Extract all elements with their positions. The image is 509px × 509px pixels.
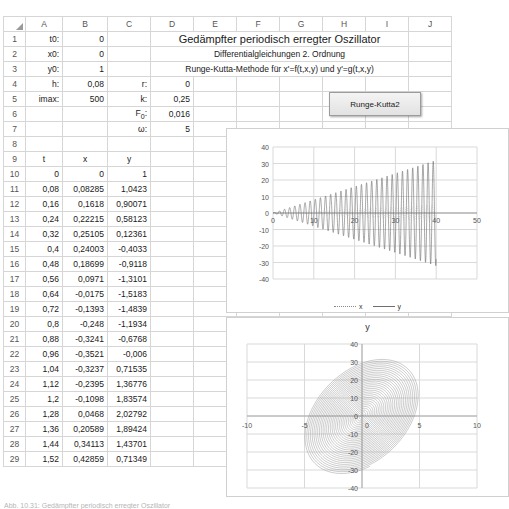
cell-c6-f0-label[interactable]: F0: xyxy=(108,107,151,122)
cell-c14-y[interactable]: 0,12361 xyxy=(108,227,151,242)
cell-j1[interactable] xyxy=(409,32,452,47)
cell-d26[interactable] xyxy=(151,407,194,422)
row-header-26[interactable]: 26 xyxy=(4,407,26,422)
cell-c10-y[interactable]: 1 xyxy=(108,167,151,182)
row-header-25[interactable]: 25 xyxy=(4,392,26,407)
cell-b8[interactable] xyxy=(63,137,108,152)
row-header-29[interactable]: 29 xyxy=(4,452,26,467)
column-header-a[interactable]: A xyxy=(26,17,63,32)
cell-f5[interactable] xyxy=(237,92,280,107)
cell-a3-y0-label[interactable]: y0: xyxy=(26,62,63,77)
cell-e6[interactable] xyxy=(194,107,237,122)
phase-plot-chart[interactable]: y xyxy=(226,317,509,497)
cell-d18[interactable] xyxy=(151,287,194,302)
cell-d7-omega-value[interactable]: 5 xyxy=(151,122,194,137)
cell-b26-x[interactable]: 0,0468 xyxy=(63,407,108,422)
cell-b21-x[interactable]: -0,3241 xyxy=(63,332,108,347)
cell-d4-r-value[interactable]: 0 xyxy=(151,77,194,92)
row-header-6[interactable]: 6 xyxy=(4,107,26,122)
cell-b22-x[interactable]: -0,3521 xyxy=(63,347,108,362)
row-header-7[interactable]: 7 xyxy=(4,122,26,137)
cell-c29-y[interactable]: 0,71349 xyxy=(108,452,151,467)
cell-d17[interactable] xyxy=(151,272,194,287)
cell-a26-t[interactable]: 1,28 xyxy=(26,407,63,422)
cell-d14[interactable] xyxy=(151,227,194,242)
cell-d24[interactable] xyxy=(151,377,194,392)
cell-d19[interactable] xyxy=(151,302,194,317)
cell-a15-t[interactable]: 0,4 xyxy=(26,242,63,257)
column-header-g[interactable]: G xyxy=(280,17,323,32)
cell-a27-t[interactable]: 1,36 xyxy=(26,422,63,437)
cell-b1-t0-value[interactable]: 0 xyxy=(63,32,108,47)
cell-b11-x[interactable]: 0,08285 xyxy=(63,182,108,197)
cell-a22-t[interactable]: 0,96 xyxy=(26,347,63,362)
row-header-23[interactable]: 23 xyxy=(4,362,26,377)
cell-b16-x[interactable]: 0,18699 xyxy=(63,257,108,272)
row-header-19[interactable]: 19 xyxy=(4,302,26,317)
cell-d13[interactable] xyxy=(151,212,194,227)
cell-a25-t[interactable]: 1,2 xyxy=(26,392,63,407)
row-header-28[interactable]: 28 xyxy=(4,437,26,452)
cell-h4[interactable] xyxy=(323,77,366,92)
cell-d20[interactable] xyxy=(151,317,194,332)
cell-b2-x0-value[interactable]: 0 xyxy=(63,47,108,62)
cell-c27-y[interactable]: 1,89424 xyxy=(108,422,151,437)
cell-b9-header-x[interactable]: x xyxy=(63,152,108,167)
cell-b28-x[interactable]: 0,34113 xyxy=(63,437,108,452)
column-header-b[interactable]: B xyxy=(63,17,108,32)
row-header-11[interactable]: 11 xyxy=(4,182,26,197)
cell-c9-header-y[interactable]: y xyxy=(108,152,151,167)
cell-a11-t[interactable]: 0,08 xyxy=(26,182,63,197)
cell-d16[interactable] xyxy=(151,257,194,272)
cell-b12-x[interactable]: 0,1618 xyxy=(63,197,108,212)
cell-c4-r-label[interactable]: r: xyxy=(108,77,151,92)
column-header-e[interactable]: E xyxy=(194,17,237,32)
cell-d28[interactable] xyxy=(151,437,194,452)
row-header-15[interactable]: 15 xyxy=(4,242,26,257)
column-header-c[interactable]: C xyxy=(108,17,151,32)
cell-j4[interactable] xyxy=(409,77,452,92)
column-header-f[interactable]: F xyxy=(237,17,280,32)
cell-c2[interactable] xyxy=(108,47,151,62)
cell-d21[interactable] xyxy=(151,332,194,347)
cell-d27[interactable] xyxy=(151,422,194,437)
cell-a13-t[interactable]: 0,24 xyxy=(26,212,63,227)
column-header-i[interactable]: I xyxy=(366,17,409,32)
cell-c25-y[interactable]: 1,83574 xyxy=(108,392,151,407)
cell-d23[interactable] xyxy=(151,362,194,377)
cell-g4[interactable] xyxy=(280,77,323,92)
cell-c20-y[interactable]: -1,1934 xyxy=(108,317,151,332)
cell-c18-y[interactable]: -1,5183 xyxy=(108,287,151,302)
cell-b25-x[interactable]: -0,1098 xyxy=(63,392,108,407)
cell-d15[interactable] xyxy=(151,242,194,257)
cell-d2-subtitle-1[interactable]: Differentialgleichungen 2. Ordnung xyxy=(151,47,409,62)
cell-a17-t[interactable]: 0,56 xyxy=(26,272,63,287)
cell-j2[interactable] xyxy=(409,47,452,62)
cell-d10[interactable] xyxy=(151,167,194,182)
row-header-14[interactable]: 14 xyxy=(4,227,26,242)
cell-a16-t[interactable]: 0,48 xyxy=(26,257,63,272)
row-header-21[interactable]: 21 xyxy=(4,332,26,347)
column-header-d[interactable]: D xyxy=(151,17,194,32)
row-header-13[interactable]: 13 xyxy=(4,212,26,227)
cell-b19-x[interactable]: -0,1393 xyxy=(63,302,108,317)
time-series-chart[interactable]: 40 30 20 10 0 -10 -20 -30 -40 0 10 20 30… xyxy=(226,128,509,313)
row-header-3[interactable]: 3 xyxy=(4,62,26,77)
cell-d8[interactable] xyxy=(151,137,194,152)
row-header-12[interactable]: 12 xyxy=(4,197,26,212)
cell-b15-x[interactable]: 0,24003 xyxy=(63,242,108,257)
cell-b29-x[interactable]: 0,42859 xyxy=(63,452,108,467)
cell-d6-f0-value[interactable]: 0,016 xyxy=(151,107,194,122)
row-header-16[interactable]: 16 xyxy=(4,257,26,272)
row-header-1[interactable]: 1 xyxy=(4,32,26,47)
cell-b5-imax-value[interactable]: 500 xyxy=(63,92,108,107)
cell-b17-x[interactable]: 0,0971 xyxy=(63,272,108,287)
cell-b10-x[interactable]: 0 xyxy=(63,167,108,182)
cell-a1-t0-label[interactable]: t0: xyxy=(26,32,63,47)
row-header-2[interactable]: 2 xyxy=(4,47,26,62)
row-header-24[interactable]: 24 xyxy=(4,377,26,392)
cell-g6[interactable] xyxy=(280,107,323,122)
cell-d9[interactable] xyxy=(151,152,194,167)
column-header-h[interactable]: H xyxy=(323,17,366,32)
cell-c3[interactable] xyxy=(108,62,151,77)
